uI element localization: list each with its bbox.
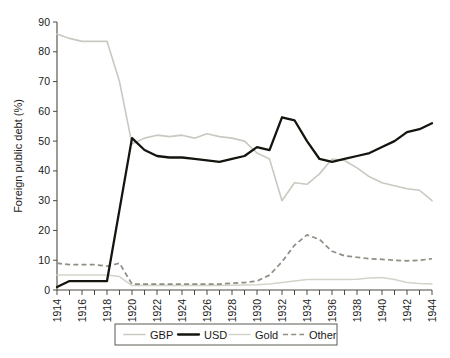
x-tick-label: 1914 [51, 299, 63, 323]
series-line-gold [57, 275, 432, 285]
x-axis: 1914191619181920192219241926192819301932… [51, 290, 438, 322]
x-tick-label: 1940 [376, 299, 388, 323]
series-layer [57, 34, 432, 287]
chart-container: Foreign public debt (%) 0102030405060708… [0, 0, 450, 358]
y-axis: 0102030405060708090 [38, 16, 57, 296]
y-tick-label: 50 [38, 135, 50, 147]
x-tick-label: 1924 [176, 299, 188, 323]
legend-label-usd: USD [204, 329, 227, 341]
y-tick-label: 0 [44, 284, 50, 296]
chart-legend: GBPUSDGoldOther [115, 324, 337, 345]
x-tick-label: 1922 [151, 299, 163, 323]
x-tick-label: 1916 [76, 299, 88, 323]
y-tick-label: 60 [38, 105, 50, 117]
x-tick-label: 1926 [201, 299, 213, 323]
y-tick-label: 20 [38, 224, 50, 236]
x-tick-label: 1928 [226, 299, 238, 323]
y-axis-label-group: Foreign public debt (%) [12, 99, 24, 213]
legend-label-gbp: GBP [150, 329, 173, 341]
x-tick-label: 1936 [326, 299, 338, 323]
x-tick-label: 1932 [276, 299, 288, 323]
y-tick-label: 70 [38, 75, 50, 87]
x-tick-label: 1920 [126, 299, 138, 323]
y-tick-label: 10 [38, 254, 50, 266]
y-tick-label: 30 [38, 194, 50, 206]
y-axis-label: Foreign public debt (%) [12, 99, 24, 213]
x-tick-label: 1934 [301, 299, 313, 323]
x-tick-label: 1944 [426, 299, 438, 323]
y-tick-label: 90 [38, 16, 50, 28]
legend-label-gold: Gold [255, 329, 278, 341]
x-tick-label: 1942 [401, 299, 413, 323]
y-tick-label: 40 [38, 164, 50, 176]
legend-label-other: Other [309, 329, 337, 341]
series-line-usd [57, 117, 432, 287]
y-tick-label: 80 [38, 45, 50, 57]
series-line-gbp [57, 34, 432, 201]
line-chart: Foreign public debt (%) 0102030405060708… [0, 0, 450, 358]
x-tick-label: 1930 [251, 299, 263, 323]
x-tick-label: 1938 [351, 299, 363, 323]
x-tick-label: 1918 [101, 299, 113, 323]
